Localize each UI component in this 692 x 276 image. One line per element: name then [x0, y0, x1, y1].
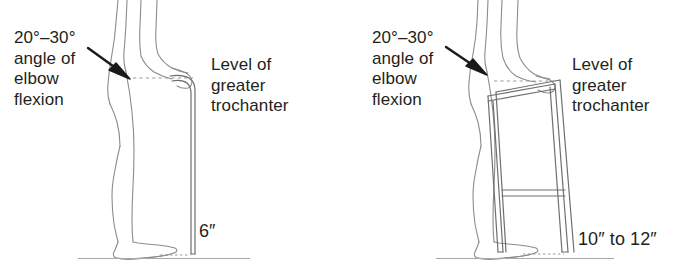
panel-cane: 20°–30° angle of elbow flexion Level of … — [0, 0, 346, 276]
arm-inner-outline — [156, 0, 188, 73]
torso-inner-outline — [124, 0, 127, 72]
cane-inner-edge — [172, 80, 191, 254]
walker-offset-measurement-label: 10″ to 12″ — [578, 229, 657, 250]
greater-trochanter-label: Level of greater trochanter — [211, 55, 289, 117]
greater-trochanter-label: Level of greater trochanter — [572, 55, 650, 117]
walker-top-rail-lower-edge — [488, 89, 555, 101]
panel-walker: 20°–30° angle of elbow flexion Level of … — [346, 0, 692, 276]
foot-outline — [113, 242, 176, 259]
hip-outline — [110, 104, 120, 146]
torso-outline — [469, 0, 478, 104]
cane-walker-measurement-figure: 20°–30° angle of elbow flexion Level of … — [0, 0, 692, 276]
arm-outline — [501, 0, 536, 82]
back-leg-outline — [112, 146, 120, 242]
torso-outline — [108, 0, 118, 104]
elbow-flexion-label: 20°–30° angle of elbow flexion — [372, 28, 434, 110]
torso-inner-outline — [485, 0, 488, 72]
walker-top-rail — [488, 84, 555, 96]
hip-outline — [471, 104, 481, 146]
elbow-flexion-label: 20°–30° angle of elbow flexion — [14, 28, 76, 110]
cane-offset-measurement-label: 6″ — [199, 221, 216, 242]
elbow-flexion-arrow — [446, 47, 487, 75]
arm-inner-outline — [517, 0, 550, 79]
front-leg-outline — [126, 72, 134, 242]
walker-rear-leg-outer — [555, 84, 568, 252]
walker-rear-leg-inner — [550, 87, 562, 252]
back-leg-outline — [473, 146, 481, 242]
